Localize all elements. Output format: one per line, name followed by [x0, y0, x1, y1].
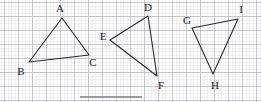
- vertex-label-e: E: [100, 31, 107, 42]
- footer-rule: [80, 96, 142, 98]
- vertex-label-d: D: [144, 2, 152, 13]
- vertex-label-i: I: [239, 4, 243, 15]
- vertex-label-a: A: [56, 3, 64, 14]
- vertex-label-b: B: [17, 66, 24, 77]
- geometry-figure: ABCDEFGIH: [0, 0, 261, 102]
- vertex-label-f: F: [158, 80, 164, 91]
- vertex-label-h: H: [211, 80, 219, 91]
- graph-paper-grid: [0, 0, 261, 102]
- vertex-label-g: G: [183, 15, 191, 26]
- vertex-label-c: C: [89, 57, 96, 68]
